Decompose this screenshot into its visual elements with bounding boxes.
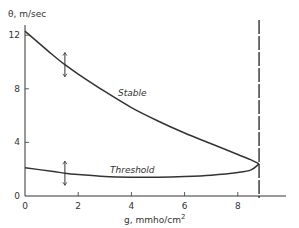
- x-tick-label: 6: [182, 201, 188, 211]
- curves: [25, 31, 259, 177]
- x-tick-label: 2: [75, 201, 81, 211]
- line-chart: 0246804812θ, m/secg, mmho/cm2 StableThre…: [0, 0, 299, 228]
- x-tick-label: 8: [235, 201, 241, 211]
- axes: 0246804812θ, m/secg, mmho/cm2: [8, 9, 286, 225]
- y-tick-label: 4: [14, 137, 20, 147]
- y-tick-label: 0: [14, 191, 20, 201]
- curve-label-stable: Stable: [118, 88, 147, 98]
- x-axis-title: g, mmho/cm2: [124, 213, 185, 225]
- error-bars: [63, 53, 67, 186]
- labels: StableThreshold: [110, 88, 155, 175]
- y-tick-label: 12: [9, 30, 20, 40]
- x-tick-label: 0: [22, 201, 28, 211]
- y-tick-label: 8: [14, 84, 20, 94]
- chart-canvas: 0246804812θ, m/secg, mmho/cm2 StableThre…: [0, 0, 299, 228]
- y-axis-title: θ, m/sec: [8, 9, 46, 19]
- x-tick-label: 4: [129, 201, 135, 211]
- curve-label-threshold: Threshold: [110, 165, 155, 175]
